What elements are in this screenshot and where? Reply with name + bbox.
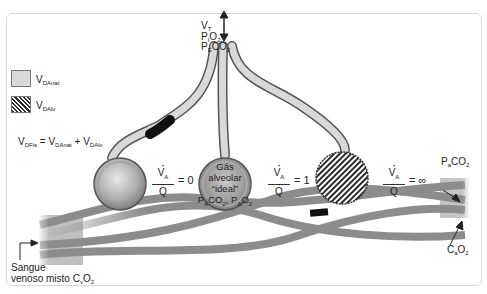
vq-ratio-infinity: VA Q = ∞ (383, 167, 405, 198)
alveolar-dead-space-swatch (11, 96, 31, 113)
mixed-venous-blood-label: Sangue venoso misto CvO2 (11, 262, 94, 288)
legend-label-alveolar: VDAlv (36, 100, 55, 115)
vq-ratio-one: VA Q = 1 (268, 167, 290, 198)
ideal-alveolar-gas-label: Gás alveolar “ideal” PACO2, PAO2 (196, 161, 254, 210)
vq-ratio-zero: VA Q = 0 (152, 167, 174, 198)
physiologic-dead-space-equation: VDFis = VDAnat + VDAlv (18, 136, 103, 151)
arterial-o2-content-label: CaO2 (447, 244, 469, 259)
arterial-pco2-label: PaCO2 (441, 156, 469, 171)
legend-label-anatomic: VDAnat (36, 74, 59, 89)
airways (112, 46, 345, 158)
anatomic-dead-space-swatch (11, 70, 31, 87)
expired-pco2-label: PECO2 (201, 41, 230, 56)
